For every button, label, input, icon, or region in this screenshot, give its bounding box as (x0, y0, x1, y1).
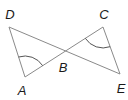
segment-DA (9, 27, 25, 77)
geometry-diagram: D A B C E (0, 0, 128, 100)
point-label-B: B (59, 61, 68, 74)
point-label-E: E (117, 82, 126, 95)
angle-arc-C (85, 38, 110, 48)
angle-arc-A (19, 56, 43, 66)
segment-CE (103, 27, 120, 74)
point-label-D: D (5, 8, 14, 21)
point-label-C: C (99, 8, 108, 21)
point-label-A: A (18, 84, 27, 97)
